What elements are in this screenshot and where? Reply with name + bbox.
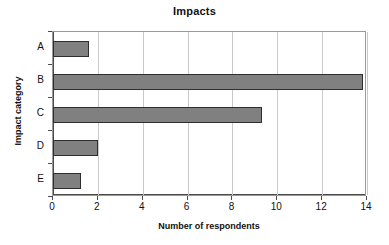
x-tick bbox=[187, 196, 188, 200]
x-tick bbox=[366, 196, 367, 200]
chart-title: Impacts bbox=[0, 5, 389, 17]
x-tick bbox=[52, 196, 53, 200]
bar-e bbox=[53, 173, 81, 189]
y-tick bbox=[48, 196, 52, 197]
x-tick-label: 6 bbox=[172, 201, 202, 212]
x-tick bbox=[97, 196, 98, 200]
y-tick-label-d: D bbox=[14, 140, 44, 151]
y-tick bbox=[48, 64, 52, 65]
y-tick bbox=[48, 31, 52, 32]
x-tick-label: 8 bbox=[216, 201, 246, 212]
y-tick bbox=[48, 97, 52, 98]
x-tick-label: 4 bbox=[127, 201, 157, 212]
x-axis-title: Number of respondents bbox=[52, 221, 366, 231]
x-tick-label: 10 bbox=[261, 201, 291, 212]
y-tick-label-e: E bbox=[14, 173, 44, 184]
y-tick-label-a: A bbox=[14, 41, 44, 52]
bar-b bbox=[53, 74, 363, 90]
x-tick bbox=[321, 196, 322, 200]
bar-c bbox=[53, 107, 262, 123]
y-tick bbox=[48, 130, 52, 131]
x-tick bbox=[142, 196, 143, 200]
bar-chart: Impacts Number of respondents Impact cat… bbox=[0, 0, 389, 245]
plot-area bbox=[52, 31, 366, 196]
y-tick-label-c: C bbox=[14, 107, 44, 118]
x-tick-label: 0 bbox=[37, 201, 67, 212]
bar-a bbox=[53, 41, 89, 57]
x-tick bbox=[231, 196, 232, 200]
gridline bbox=[277, 32, 278, 195]
x-tick-label: 2 bbox=[82, 201, 112, 212]
x-axis-line bbox=[53, 194, 365, 195]
y-tick-label-b: B bbox=[14, 74, 44, 85]
gridline bbox=[322, 32, 323, 195]
x-tick-label: 14 bbox=[351, 201, 381, 212]
x-tick-label: 12 bbox=[306, 201, 336, 212]
y-tick bbox=[48, 163, 52, 164]
gridline bbox=[367, 32, 368, 195]
bar-d bbox=[53, 140, 98, 156]
x-tick bbox=[276, 196, 277, 200]
